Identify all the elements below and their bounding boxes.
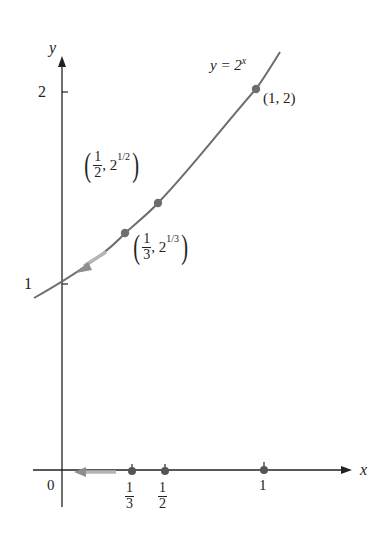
x-point-one: [260, 466, 268, 474]
x-point-third: [128, 467, 136, 475]
exponent: 1/2: [117, 151, 130, 162]
frac-num: 1: [142, 232, 151, 248]
x-approach-arrowhead-icon: [74, 467, 86, 477]
frac-num: 1: [158, 481, 167, 497]
x-axis-label: x: [360, 462, 367, 478]
frac-den: 3: [143, 248, 150, 263]
point-label-third: (13, 21/3): [131, 230, 190, 264]
exponent: 1/3: [166, 233, 179, 244]
plot-canvas: [0, 0, 384, 546]
y-tick-label-1: 1: [24, 276, 32, 292]
x-axis-arrow-icon: [341, 466, 352, 474]
x-tick-label-third: 13: [125, 481, 134, 511]
x-tick-label-one: 1: [259, 478, 267, 493]
x-point-half: [161, 467, 169, 475]
frac-den: 2: [94, 166, 101, 181]
frac-den: 2: [159, 497, 166, 512]
curve-label: y = 2x: [210, 56, 246, 73]
y-axis-label: y: [49, 40, 56, 56]
point-third: [121, 229, 129, 237]
origin-label: 0: [47, 478, 55, 493]
point-half: [154, 199, 162, 207]
curve-label-text: y = 2: [210, 57, 242, 73]
curve-label-exp: x: [242, 55, 246, 66]
point-label-half: (12, 21/2): [82, 148, 141, 182]
frac-num: 1: [125, 481, 134, 497]
y-tick-label-2: 2: [38, 84, 46, 100]
y-axis-arrow-icon: [58, 56, 66, 67]
point-one-two: [252, 85, 260, 93]
point-label-one-two: (1, 2): [263, 91, 296, 106]
x-tick-label-half: 12: [158, 481, 167, 511]
frac-den: 3: [126, 497, 133, 512]
frac-num: 1: [93, 150, 102, 166]
